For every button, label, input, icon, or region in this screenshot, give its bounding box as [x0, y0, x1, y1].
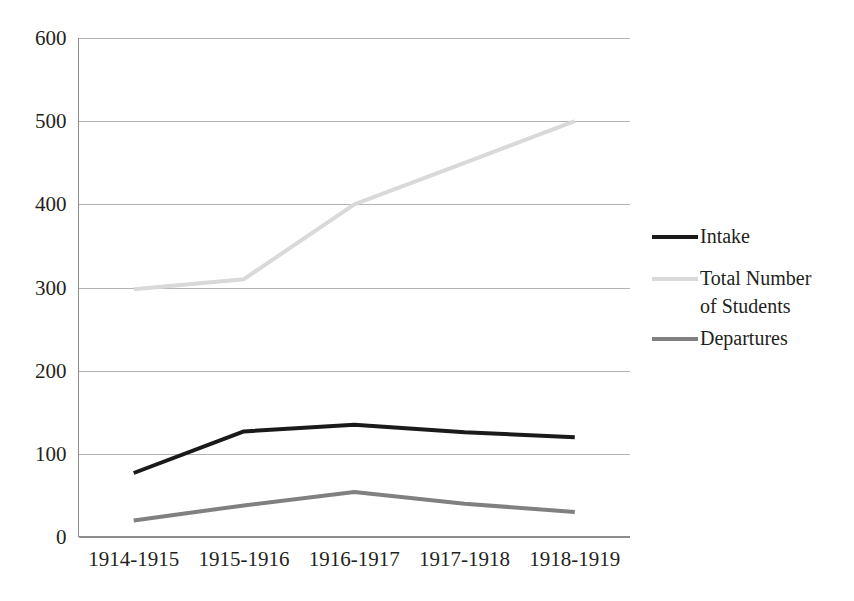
x-tick-label: 1917-1918: [419, 547, 510, 571]
legend-label-total-number-of-students: Total Number: [700, 267, 812, 289]
x-tick-label: 1915-1916: [198, 547, 289, 571]
x-tick-label: 1914-1915: [88, 547, 179, 571]
y-tick-label: 500: [35, 109, 67, 133]
x-tick-label: 1916-1917: [309, 547, 400, 571]
legend-label-departures: Departures: [700, 327, 788, 350]
y-tick-label: 100: [35, 442, 67, 466]
chart-canvas: 0100200300400500600 1914-19151915-191619…: [0, 0, 854, 601]
y-tick-label: 600: [35, 26, 67, 50]
y-tick-label: 200: [35, 359, 67, 383]
legend-label-total-number-of-students-line2: of Students: [700, 295, 791, 317]
legend-label-intake: Intake: [700, 225, 750, 247]
x-axis-tick-labels: 1914-19151915-19161916-19171917-19181918…: [88, 547, 620, 571]
x-tick-label: 1918-1919: [529, 547, 620, 571]
line-chart: 0100200300400500600 1914-19151915-191619…: [0, 0, 854, 601]
y-tick-label: 300: [35, 276, 67, 300]
y-tick-label: 0: [56, 525, 67, 549]
y-tick-label: 400: [35, 192, 67, 216]
